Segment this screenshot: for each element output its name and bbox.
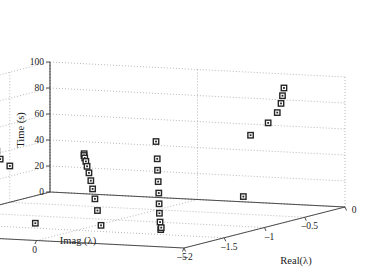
marker-center (92, 188, 94, 190)
axis-title-y: Imag.(λ) (60, 235, 97, 247)
data-point-marker (32, 220, 39, 227)
axis-title-x: Real(λ) (280, 255, 312, 267)
axis-labels: Time (s)Imag.(λ)Real(λ) (15, 112, 312, 267)
data-point-marker (279, 92, 286, 99)
marker-center (282, 95, 284, 97)
data-point-marker (265, 119, 272, 126)
marker-center (90, 180, 92, 182)
marker-center (280, 103, 282, 105)
data-point-marker (155, 190, 162, 197)
tick-label-z: 80 (35, 83, 45, 93)
tick-label-x: –2 (182, 252, 193, 262)
data-point-marker (92, 195, 99, 202)
tick-label-z: 60 (35, 109, 45, 119)
marker-center (159, 212, 161, 214)
data-point-marker (274, 109, 281, 116)
tick-x (184, 248, 186, 252)
tick-x (305, 217, 307, 221)
data-point-marker (98, 222, 105, 229)
marker-center (158, 192, 160, 194)
marker-center (157, 181, 159, 183)
data-point-marker (247, 132, 254, 139)
tick-label-x: –1.5 (220, 242, 238, 252)
data-point-marker (153, 138, 160, 145)
marker-center (156, 158, 158, 160)
marker-center (267, 122, 269, 124)
marker-center (94, 198, 96, 200)
marker-center (250, 134, 252, 136)
marker-center (283, 87, 285, 89)
data-point-marker (156, 200, 163, 207)
marker-center (88, 172, 90, 174)
data-point-marker (94, 207, 101, 214)
data-point-marker (0, 156, 4, 163)
marker-center (34, 222, 36, 224)
data-point-marker (87, 177, 94, 184)
data-point-marker (156, 210, 163, 217)
marker-center (86, 165, 88, 167)
data-point-marker (84, 163, 91, 170)
axis-title-z: Time (s) (15, 112, 27, 148)
marker-center (242, 196, 244, 198)
tick-label-z: 100 (30, 57, 45, 67)
data-point-marker (154, 167, 161, 174)
data-point-marker (281, 85, 288, 92)
tick-x (265, 228, 267, 232)
tick-label-x: –0.5 (300, 221, 318, 231)
data-point-marker (240, 193, 247, 200)
data-point-marker (89, 186, 96, 193)
marker-center (97, 210, 99, 212)
tick-x (224, 238, 226, 242)
data-point-marker (158, 224, 165, 231)
marker-center (158, 203, 160, 205)
tick-x (345, 207, 347, 211)
tick-label-x: –1 (264, 232, 275, 242)
data-point-marker (278, 100, 285, 107)
data-points (0, 85, 287, 233)
marker-center (85, 160, 87, 162)
marker-center (9, 165, 11, 167)
grid-wall-right-z (50, 166, 345, 181)
grid-floor-x (0, 213, 265, 228)
marker-center (160, 227, 162, 229)
data-point-marker (154, 155, 161, 162)
marker-center (0, 158, 1, 160)
chart-3d-scatter: 02040608010050–5–2–1.5–1–0.50 Time (s)Im… (0, 0, 375, 280)
data-point-marker (86, 169, 93, 176)
plot-canvas: 02040608010050–5–2–1.5–1–0.50 Time (s)Im… (0, 0, 375, 280)
marker-center (100, 224, 102, 226)
tick-label-y: 0 (32, 245, 37, 255)
data-point-marker (6, 163, 13, 170)
data-point-marker (155, 178, 162, 185)
marker-center (159, 221, 161, 223)
marker-center (157, 169, 159, 171)
marker-center (276, 112, 278, 114)
tick-label-z: 40 (35, 135, 45, 145)
tick-label-z: 20 (35, 161, 45, 171)
axis-lines (0, 62, 345, 248)
tick-label-x: 0 (352, 205, 357, 215)
tick-label-z: 0 (39, 187, 44, 197)
tick-y (35, 241, 37, 245)
marker-center (155, 141, 157, 143)
grid-wall-right-z (50, 88, 345, 103)
